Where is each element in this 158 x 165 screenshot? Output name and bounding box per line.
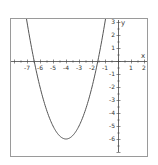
- y-tick-label: 1: [111, 44, 115, 51]
- plot-frame: [11, 19, 148, 157]
- x-tick-label: -2: [89, 64, 95, 71]
- y-tick-label: -1: [109, 70, 115, 77]
- x-tick-label: -6: [37, 64, 43, 71]
- x-tick-label: -7: [24, 64, 30, 71]
- x-tick-label: 1: [129, 64, 133, 71]
- y-tick-label: -5: [109, 122, 115, 129]
- y-tick-label: 3: [111, 18, 115, 25]
- y-tick-label: -2: [109, 83, 115, 90]
- y-tick-label: 2: [111, 31, 115, 38]
- y-tick-label: -4: [109, 109, 115, 116]
- y-tick-label: -6: [109, 135, 115, 142]
- x-tick-label: -1: [102, 64, 108, 71]
- x-tick-label: -5: [50, 64, 56, 71]
- x-tick-label: 2: [142, 64, 146, 71]
- parabola-chart: -7-6-5-4-3-2-112321-1-2-3-4-5-6 x y: [0, 0, 158, 165]
- x-tick-label: -3: [76, 64, 82, 71]
- y-axis-title: y: [121, 19, 125, 27]
- y-tick-label: -3: [109, 96, 115, 103]
- x-tick-label: -4: [63, 64, 69, 71]
- x-axis-title: x: [141, 52, 145, 60]
